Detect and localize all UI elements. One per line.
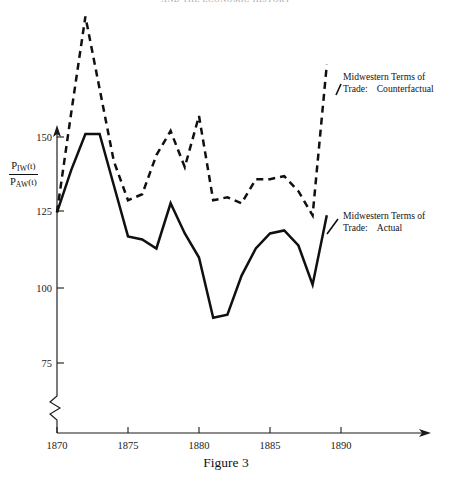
series-line-actual <box>57 134 327 318</box>
x-tick-label-1870: 1870 <box>47 440 68 451</box>
figure-caption: Figure 3 <box>0 455 452 471</box>
legend-actual-line1: Midwestern Terms of <box>343 210 425 222</box>
legend-counterfactual-line1: Midwestern Terms of <box>343 71 434 83</box>
numerator-argument: (t) <box>27 161 36 171</box>
legend-actual-prefix: Trade: <box>343 222 368 233</box>
figure-root: AND THE ECONOMIC HISTORY 150 125 100 75 … <box>0 0 452 482</box>
y-axis-label-denominator: PAW(t) <box>8 175 39 189</box>
y-tick-label-100: 100 <box>36 283 52 294</box>
y-axis-label-numerator: PIW(t) <box>8 160 39 174</box>
numerator-subscript: IW <box>17 164 27 173</box>
x-tick-label-1880: 1880 <box>189 440 210 451</box>
legend-leader-actual <box>327 219 338 234</box>
legend-actual-line2: Trade:Actual <box>343 222 425 234</box>
x-tick-label-1890: 1890 <box>331 440 352 451</box>
legend-counterfactual-prefix: Trade: <box>343 83 368 94</box>
x-tick-label-1875: 1875 <box>118 440 139 451</box>
legend-counterfactual: Midwestern Terms of Trade:Counterfactual <box>343 71 434 96</box>
denominator-subscript: AW <box>16 181 28 190</box>
x-tick-label-1885: 1885 <box>260 440 281 451</box>
legend-leader-counterfactual <box>336 84 341 95</box>
y-tick-label-75: 75 <box>42 358 53 369</box>
series-line-counterfactual <box>57 16 327 215</box>
legend-actual: Midwestern Terms of Trade:Actual <box>343 210 425 235</box>
denominator-argument: (t) <box>28 177 37 187</box>
y-tick-label-125: 125 <box>36 206 52 217</box>
legend-counterfactual-value: Counterfactual <box>377 83 434 94</box>
legend-actual-value: Actual <box>377 222 403 233</box>
y-axis-line <box>50 131 60 433</box>
y-tick-label-150: 150 <box>36 132 52 143</box>
y-axis-label: PIW(t) PAW(t) <box>8 160 39 190</box>
legend-counterfactual-line2: Trade:Counterfactual <box>343 83 434 95</box>
